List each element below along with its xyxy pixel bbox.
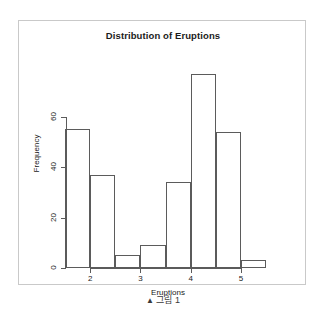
y-tick-label: 40 xyxy=(49,161,58,173)
x-tick-label: 4 xyxy=(184,274,198,283)
bars-layer xyxy=(19,21,307,286)
x-axis-line xyxy=(90,268,241,269)
histogram-bar xyxy=(140,245,165,268)
y-tick-mark xyxy=(61,167,66,168)
caption-label: 그림 1 xyxy=(156,295,180,305)
y-tick-mark xyxy=(61,268,66,269)
histogram-bar xyxy=(241,260,266,268)
histogram-bar xyxy=(166,182,191,268)
y-axis-title: Frequency xyxy=(32,124,41,184)
x-tick-label: 5 xyxy=(234,274,248,283)
figure-container: Distribution of Eruptions 0204060 2345 F… xyxy=(0,0,326,325)
y-axis-line xyxy=(66,117,67,268)
histogram-plot: Distribution of Eruptions 0204060 2345 F… xyxy=(19,21,307,286)
figure-caption: ▲ 그림 1 xyxy=(0,293,326,306)
x-tick-mark xyxy=(241,268,242,273)
histogram-bar xyxy=(115,255,140,268)
plot-image-frame: Distribution of Eruptions 0204060 2345 F… xyxy=(18,20,306,285)
histogram-bar xyxy=(216,132,241,268)
histogram-bar xyxy=(65,129,90,268)
y-tick-label: 60 xyxy=(49,110,58,122)
x-tick-mark xyxy=(191,268,192,273)
x-tick-mark xyxy=(90,268,91,273)
histogram-bar xyxy=(191,74,216,268)
y-tick-label: 0 xyxy=(49,262,58,274)
y-tick-mark xyxy=(61,117,66,118)
x-tick-label: 2 xyxy=(83,274,97,283)
x-tick-mark xyxy=(140,268,141,273)
x-tick-label: 3 xyxy=(133,274,147,283)
y-tick-label: 20 xyxy=(49,211,58,223)
histogram-bar xyxy=(90,175,115,268)
y-tick-mark xyxy=(61,218,66,219)
caption-triangle-icon: ▲ xyxy=(146,296,154,305)
